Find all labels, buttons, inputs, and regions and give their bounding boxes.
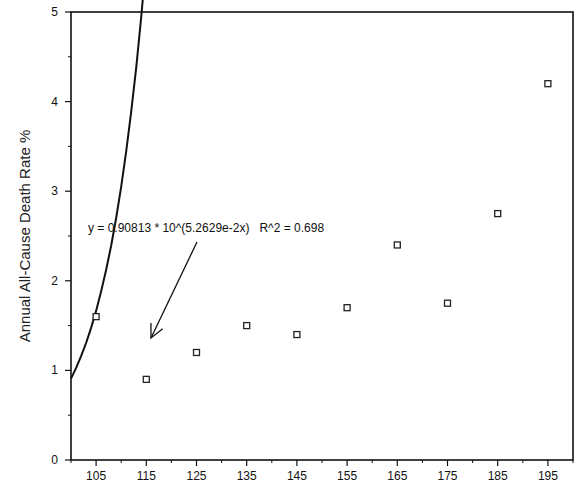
x-tick-label: 135 bbox=[237, 469, 257, 483]
y-axis: 012345 bbox=[51, 5, 71, 467]
scatter-chart: 012345 105115125135145155165175185195 An… bbox=[0, 0, 581, 503]
y-tick-label: 2 bbox=[51, 274, 58, 288]
y-tick-label: 5 bbox=[51, 5, 58, 19]
y-tick-label: 0 bbox=[51, 453, 58, 467]
plot-border bbox=[71, 12, 573, 460]
fit-annotation: y = 0.90813 * 10^(5.2629e-2x) R^2 = 0.69… bbox=[88, 221, 324, 338]
x-tick-label: 155 bbox=[337, 469, 357, 483]
x-tick-label: 185 bbox=[488, 469, 508, 483]
x-tick-label: 165 bbox=[387, 469, 407, 483]
fit-equation-label: y = 0.90813 * 10^(5.2629e-2x) R^2 = 0.69… bbox=[88, 221, 324, 235]
y-axis-title: Annual All-Cause Death Rate % bbox=[16, 130, 33, 343]
data-point-marker bbox=[93, 314, 99, 320]
data-point-marker bbox=[294, 332, 300, 338]
y-tick-label: 3 bbox=[51, 184, 58, 198]
fit-curve-path bbox=[71, 0, 573, 380]
x-tick-label: 105 bbox=[86, 469, 106, 483]
data-point-marker bbox=[495, 211, 501, 217]
data-point-marker bbox=[244, 323, 250, 329]
x-axis: 105115125135145155165175185195 bbox=[71, 460, 573, 483]
data-point-marker bbox=[344, 305, 350, 311]
plot-frame bbox=[71, 12, 573, 460]
x-tick-label: 175 bbox=[437, 469, 457, 483]
x-tick-label: 125 bbox=[186, 469, 206, 483]
x-tick-label: 115 bbox=[137, 469, 156, 483]
arrow-shaft bbox=[151, 242, 197, 338]
x-tick-label: 195 bbox=[538, 469, 558, 483]
x-tick-label: 145 bbox=[287, 469, 307, 483]
data-point-marker bbox=[545, 81, 551, 87]
data-point-marker bbox=[143, 376, 149, 382]
fit-curve bbox=[71, 0, 573, 380]
data-point-marker bbox=[194, 349, 200, 355]
data-point-marker bbox=[394, 242, 400, 248]
y-tick-label: 1 bbox=[51, 363, 58, 377]
y-tick-label: 4 bbox=[51, 95, 58, 109]
data-point-marker bbox=[445, 300, 451, 306]
